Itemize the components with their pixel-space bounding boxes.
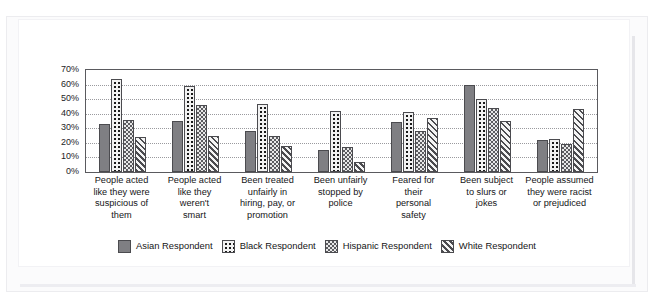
y-axis-tick: 70% bbox=[45, 65, 79, 74]
bar bbox=[476, 99, 487, 172]
legend-swatch-icon bbox=[118, 240, 131, 253]
x-axis-label-line: People acted bbox=[86, 175, 157, 187]
legend-item[interactable]: Black Respondent bbox=[222, 240, 316, 253]
bar bbox=[196, 105, 207, 172]
legend-swatch-icon bbox=[222, 240, 235, 253]
cropped-header-strip bbox=[0, 0, 662, 14]
x-axis-label-line: them bbox=[86, 210, 157, 222]
x-axis-category-label: Feared fortheirpersonalsafety bbox=[377, 175, 450, 233]
x-axis-category-label: People actedlike they weresuspicious oft… bbox=[85, 175, 158, 233]
grouped-bar-chart: 70%60%50%40%30%20%10%0% People actedlike… bbox=[19, 20, 631, 268]
bar-group bbox=[451, 70, 524, 172]
bar bbox=[172, 121, 183, 172]
y-axis-tick: 40% bbox=[45, 109, 79, 118]
figure-shadow-bottom bbox=[20, 284, 636, 287]
legend-label: Black Respondent bbox=[240, 241, 316, 251]
bar-group bbox=[232, 70, 305, 172]
bar bbox=[573, 109, 584, 172]
x-axis-label-line: weren't bbox=[159, 198, 230, 210]
legend-label: White Respondent bbox=[459, 241, 536, 251]
x-axis-label-line: like they were bbox=[86, 187, 157, 199]
bar bbox=[549, 139, 560, 173]
x-axis-label-line: suspicious of bbox=[86, 198, 157, 210]
figure-card: 70%60%50%40%30%20%10%0% People actedlike… bbox=[18, 19, 630, 267]
x-axis-category-label: People assumedthey were racistor prejudi… bbox=[523, 175, 596, 233]
y-axis-tick: 20% bbox=[45, 138, 79, 147]
x-axis-label-line: People assumed bbox=[524, 175, 595, 187]
bar bbox=[245, 131, 256, 172]
y-axis-tick-labels: 70%60%50%40%30%20%10%0% bbox=[41, 69, 79, 171]
bar bbox=[403, 112, 414, 172]
legend-item[interactable]: White Respondent bbox=[441, 240, 536, 253]
y-axis-tick: 60% bbox=[45, 80, 79, 89]
x-axis-category-labels: People actedlike they weresuspicious oft… bbox=[85, 175, 596, 233]
x-axis-label-line: promotion bbox=[232, 210, 303, 222]
chart-legend: Asian RespondentBlack RespondentHispanic… bbox=[53, 238, 601, 254]
x-axis-label-line: hiring, pay, or bbox=[232, 198, 303, 210]
x-axis-label-line: or prejudiced bbox=[524, 198, 595, 210]
x-axis-category-label: Been subjectto slurs orjokes bbox=[450, 175, 523, 233]
legend-label: Hispanic Respondent bbox=[343, 241, 432, 251]
bar bbox=[257, 104, 268, 172]
bar bbox=[391, 122, 402, 172]
figure-shadow-right bbox=[632, 36, 635, 284]
legend-item[interactable]: Asian Respondent bbox=[118, 240, 213, 253]
legend-label: Asian Respondent bbox=[136, 241, 213, 251]
x-axis-label-line: People acted bbox=[159, 175, 230, 187]
bar-group bbox=[86, 70, 159, 172]
bar bbox=[135, 137, 146, 172]
y-axis-tick: 10% bbox=[45, 152, 79, 161]
y-axis-tick: 0% bbox=[45, 167, 79, 176]
legend-item[interactable]: Hispanic Respondent bbox=[325, 240, 432, 253]
page-root: 70%60%50%40%30%20%10%0% People actedlike… bbox=[0, 0, 662, 305]
x-axis-label-line: Been subject bbox=[451, 175, 522, 187]
bar-group bbox=[159, 70, 232, 172]
bar bbox=[354, 162, 365, 172]
x-axis-label-line: Been treated bbox=[232, 175, 303, 187]
bar bbox=[111, 79, 122, 172]
x-axis-category-label: Been treatedunfairly inhiring, pay, orpr… bbox=[231, 175, 304, 233]
x-axis-category-label: People actedlike theyweren'tsmart bbox=[158, 175, 231, 233]
y-axis-tick: 30% bbox=[45, 123, 79, 132]
bar bbox=[561, 144, 572, 172]
x-axis-category-label: Been unfairlystopped bypolice bbox=[304, 175, 377, 233]
bar bbox=[99, 124, 110, 172]
bar bbox=[184, 86, 195, 172]
x-axis-label-line: their bbox=[378, 187, 449, 199]
x-axis-label-line: they were racist bbox=[524, 187, 595, 199]
x-axis-label-line: unfairly in bbox=[232, 187, 303, 199]
bar bbox=[281, 146, 292, 172]
bar bbox=[208, 136, 219, 172]
bar bbox=[427, 118, 438, 172]
x-axis-label-line: smart bbox=[159, 210, 230, 222]
y-axis-tick: 50% bbox=[45, 94, 79, 103]
bar bbox=[415, 131, 426, 172]
legend-swatch-icon bbox=[441, 240, 454, 253]
bar-group bbox=[524, 70, 597, 172]
x-axis-label-line: to slurs or bbox=[451, 187, 522, 199]
bar bbox=[123, 120, 134, 172]
bar bbox=[488, 108, 499, 172]
plot-area bbox=[85, 69, 598, 173]
bar bbox=[342, 147, 353, 172]
bar bbox=[330, 111, 341, 172]
x-axis-label-line: police bbox=[305, 198, 376, 210]
x-axis-label-line: personal bbox=[378, 198, 449, 210]
x-axis-label-line: stopped by bbox=[305, 187, 376, 199]
bar-groups bbox=[86, 70, 597, 172]
bar bbox=[318, 150, 329, 172]
x-axis-label-line: Feared for bbox=[378, 175, 449, 187]
bar-group bbox=[305, 70, 378, 172]
legend-swatch-icon bbox=[325, 240, 338, 253]
bar bbox=[537, 140, 548, 172]
x-axis-label-line: Been unfairly bbox=[305, 175, 376, 187]
bar bbox=[464, 85, 475, 172]
x-axis-label-line: jokes bbox=[451, 198, 522, 210]
x-axis-label-line: like they bbox=[159, 187, 230, 199]
bar bbox=[500, 121, 511, 172]
bar bbox=[269, 136, 280, 172]
bar-group bbox=[378, 70, 451, 172]
x-axis-label-line: safety bbox=[378, 210, 449, 222]
